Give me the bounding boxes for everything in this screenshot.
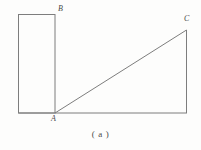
vertex-label-b: B xyxy=(58,4,63,13)
vertex-label-a: A xyxy=(51,114,56,123)
geometry-figure-canvas xyxy=(0,0,201,150)
geometry-figure-panel: B A C ( a ) xyxy=(0,0,201,150)
vertical-rectangle-shape xyxy=(19,15,56,114)
triangle-hypotenuse-AC xyxy=(55,30,187,113)
vertex-label-c: C xyxy=(184,14,189,23)
figure-caption: ( a ) xyxy=(0,129,201,140)
